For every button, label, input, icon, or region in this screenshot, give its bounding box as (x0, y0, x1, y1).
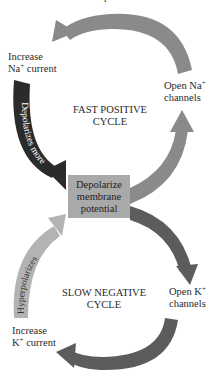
k-charge: + (202, 285, 206, 293)
na-charge: + (202, 79, 206, 87)
open-k-text: Open K (169, 286, 202, 297)
k-ion: K (12, 337, 20, 348)
increase-na-current-label: Increase Na+ current (8, 51, 57, 75)
open-na-text: Open Na (164, 80, 202, 91)
fast-cycle-line1: FAST POSITIVE (62, 104, 158, 116)
depolarize-membrane-potential-box: Depolarize membrane potential (68, 175, 130, 218)
fast-cycle-top-arrow (52, 14, 192, 74)
box-line2: membrane (76, 191, 122, 203)
box-line1: Depolarize (76, 179, 122, 191)
slow-cycle-bottom-arrow (56, 318, 178, 370)
slow-cycle-right-arrow (130, 206, 198, 285)
fast-cycle-line2: CYCLE (62, 116, 158, 128)
increase-k-current-label: Increase K+ current (12, 325, 56, 349)
increase-k-line2: K+ current (12, 337, 56, 349)
open-k-channels-label: Open K+ channels (169, 286, 206, 310)
open-na-channels-label: Open Na+ channels (164, 80, 206, 104)
increase-k-line1: Increase (12, 325, 56, 337)
slow-cycle-line2: CYCLE (56, 299, 152, 311)
current-word: current (24, 337, 56, 348)
fast-positive-cycle-title: FAST POSITIVE CYCLE (62, 104, 158, 128)
current-word: current (24, 63, 56, 74)
increase-na-line2: Na+ current (8, 63, 57, 75)
top-text-fragment: p (104, 0, 109, 2)
increase-na-line1: Increase (8, 51, 57, 63)
open-k-line1: Open K+ (169, 286, 206, 298)
open-k-line2: channels (169, 298, 206, 310)
slow-cycle-line1: SLOW NEGATIVE (56, 287, 152, 299)
na-ion: Na (8, 63, 20, 74)
open-na-line1: Open Na+ (164, 80, 206, 92)
open-na-line2: channels (164, 92, 206, 104)
slow-negative-cycle-title: SLOW NEGATIVE CYCLE (56, 287, 152, 311)
depolarizes-more-arrow: Depolarizes more (13, 80, 66, 190)
box-line3: potential (76, 203, 122, 215)
